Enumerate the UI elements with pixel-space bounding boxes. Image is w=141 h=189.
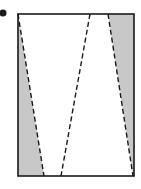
bullet-dot (0, 10, 7, 17)
dashed-line-2 (61, 14, 90, 176)
diagram (0, 0, 141, 189)
